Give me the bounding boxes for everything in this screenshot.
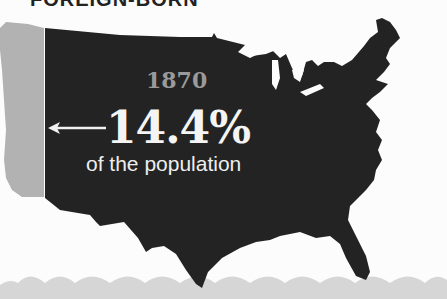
percentage-value: 14.4% bbox=[106, 102, 250, 154]
population-caption: of the population bbox=[86, 152, 241, 176]
gulf-water bbox=[0, 277, 447, 299]
west-region bbox=[0, 22, 44, 197]
year-label: 1870 bbox=[146, 67, 207, 93]
left-arrow-icon bbox=[48, 121, 106, 135]
